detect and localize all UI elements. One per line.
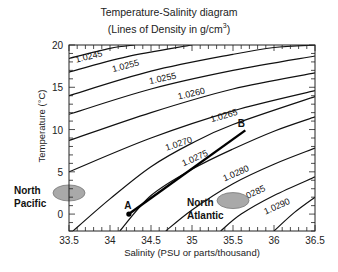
density-label: 1.0265 [209, 107, 238, 124]
x-tick-label: 34.5 [141, 235, 161, 246]
x-axis-label: Salinity (PSU or parts/thousand) [124, 247, 260, 258]
x-tick-label: 35.5 [223, 235, 243, 246]
y-tick-label: 10 [52, 125, 64, 136]
water-mass-ellipse [217, 193, 249, 209]
point-b-label: B [238, 118, 245, 129]
density-label: 1.0260 [177, 86, 206, 102]
north-pacific-label-line2: Pacific [14, 198, 47, 209]
isopycnal-line [69, 73, 315, 141]
x-tick-label: 35 [186, 235, 198, 246]
y-tick-label: 0 [57, 209, 63, 220]
y-tick-label: 5 [57, 167, 63, 178]
y-axis-label: Temperature (°C) [36, 90, 47, 163]
y-tick-label: 20 [52, 40, 64, 51]
point-a-marker [126, 211, 131, 216]
ts-diagram-plot: 1.02451.02551.02551.02601.02651.02701.02… [0, 0, 338, 272]
point-a-label: A [124, 200, 131, 211]
x-tick-label: 36 [268, 235, 280, 246]
north-pacific-label: North [14, 185, 41, 196]
x-tick-label: 33.5 [59, 235, 79, 246]
x-tick-label: 36.5 [305, 235, 325, 246]
isopycnal-line [69, 56, 315, 114]
y-tick-label: 15 [52, 82, 64, 93]
north-atlantic-label-line2: Atlantic [187, 210, 224, 221]
density-label: 1.0280 [221, 163, 250, 183]
north-atlantic-label: North [187, 197, 214, 208]
x-tick-label: 34 [104, 235, 116, 246]
density-label: 1.0245 [74, 48, 103, 64]
